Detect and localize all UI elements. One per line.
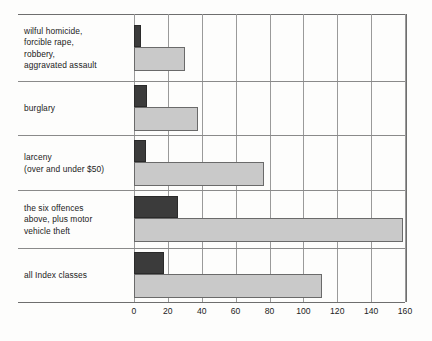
row-label-line: burglary — [24, 103, 132, 114]
row-separator — [18, 81, 405, 82]
bottom-rule — [18, 302, 405, 303]
row-label-line: the six offences — [24, 203, 132, 214]
gridline-40 — [202, 14, 203, 302]
bar-light — [134, 218, 403, 242]
x-tick-160: 160 — [398, 306, 412, 316]
row-label: burglary — [24, 103, 132, 114]
row-label-line: vehicle theft — [24, 226, 132, 237]
x-tick-100: 100 — [296, 306, 310, 316]
row-label-line: forcible rape, — [24, 37, 132, 48]
gridline-100 — [303, 14, 304, 302]
x-tick-20: 20 — [163, 306, 173, 316]
gridline-120 — [337, 14, 338, 302]
bar-dark — [134, 140, 146, 162]
bar-chart: wilful homicide,forcible rape,robbery,ag… — [0, 0, 432, 341]
x-tick-140: 140 — [364, 306, 378, 316]
row-label-line: wilful homicide, — [24, 26, 132, 37]
gridline-60 — [236, 14, 237, 302]
row-label: the six offencesabove, plus motorvehicle… — [24, 203, 132, 237]
row-separator — [18, 190, 405, 191]
bar-dark — [134, 196, 178, 218]
bar-light — [134, 107, 198, 131]
gridline-140 — [371, 14, 372, 302]
row-label: all Index classes — [24, 270, 132, 281]
bar-dark — [134, 85, 147, 107]
x-tick-80: 80 — [265, 306, 275, 316]
x-tick-120: 120 — [330, 306, 344, 316]
row-separator — [18, 248, 405, 249]
bar-dark — [134, 25, 141, 47]
x-tick-40: 40 — [197, 306, 207, 316]
row-separator — [18, 135, 405, 136]
row-label-line: all Index classes — [24, 270, 132, 281]
gridline-80 — [270, 14, 271, 302]
x-tick-60: 60 — [231, 306, 241, 316]
bar-light — [134, 47, 185, 71]
gridline-160 — [405, 14, 406, 302]
row-label: wilful homicide,forcible rape,robbery,ag… — [24, 26, 132, 71]
bar-light — [134, 274, 322, 298]
bar-light — [134, 162, 264, 186]
row-label-line: larceny — [24, 152, 132, 163]
bar-dark — [134, 252, 164, 274]
row-label: larceny(over and under $50) — [24, 152, 132, 174]
row-label-line: robbery, — [24, 49, 132, 60]
row-label-line: (over and under $50) — [24, 164, 132, 175]
row-label-line: above, plus motor — [24, 214, 132, 225]
x-tick-0: 0 — [132, 306, 137, 316]
row-label-line: aggravated assault — [24, 60, 132, 71]
